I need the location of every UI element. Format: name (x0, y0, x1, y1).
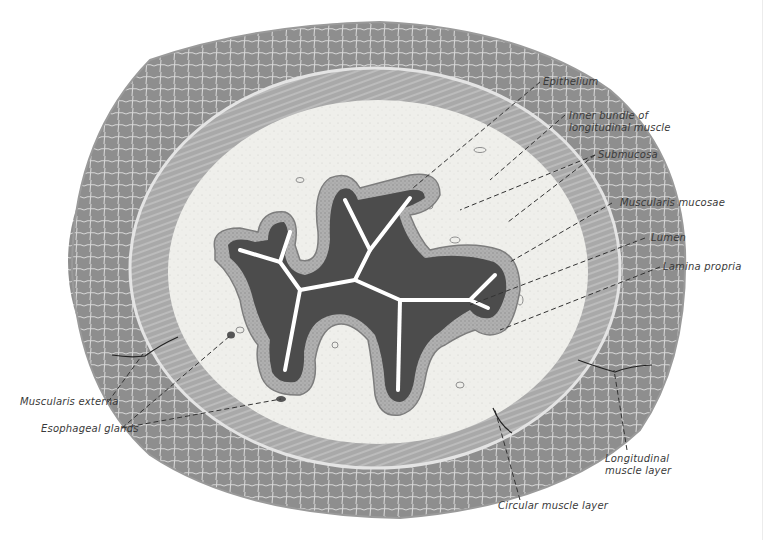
label-text: longitudinal muscle (569, 122, 671, 134)
label-lamina-propria: Lamina propria (663, 261, 742, 273)
label-text: Epithelium (543, 76, 599, 88)
label-text: Submucosa (598, 149, 658, 161)
label-text: Muscularis externa (20, 396, 119, 408)
label-text: Circular muscle layer (498, 500, 608, 512)
esophagus-diagram: Epithelium Inner bundle of longitudinal … (0, 0, 765, 540)
label-text: Longitudinal (605, 453, 671, 465)
label-muscularis-externa: Muscularis externa (20, 396, 119, 408)
label-text: Inner bundle of (569, 110, 671, 122)
label-text: Esophageal glands (41, 423, 139, 435)
label-longitudinal-muscle-layer: Longitudinal muscle layer (605, 453, 671, 477)
label-submucosa: Submucosa (598, 149, 658, 161)
label-epithelium: Epithelium (543, 76, 599, 88)
label-lumen: Lumen (651, 232, 686, 244)
scan-edge-line (762, 0, 763, 540)
label-circular-muscle-layer: Circular muscle layer (498, 500, 608, 512)
label-text: Muscularis mucosae (620, 197, 725, 209)
label-muscularis-mucosae: Muscularis mucosae (620, 197, 725, 209)
label-text: Lumen (651, 232, 686, 244)
label-inner-bundle-longitudinal-muscle: Inner bundle of longitudinal muscle (569, 110, 671, 134)
label-text: Lamina propria (663, 261, 742, 273)
label-text: muscle layer (605, 465, 671, 477)
label-esophageal-glands: Esophageal glands (41, 423, 139, 435)
